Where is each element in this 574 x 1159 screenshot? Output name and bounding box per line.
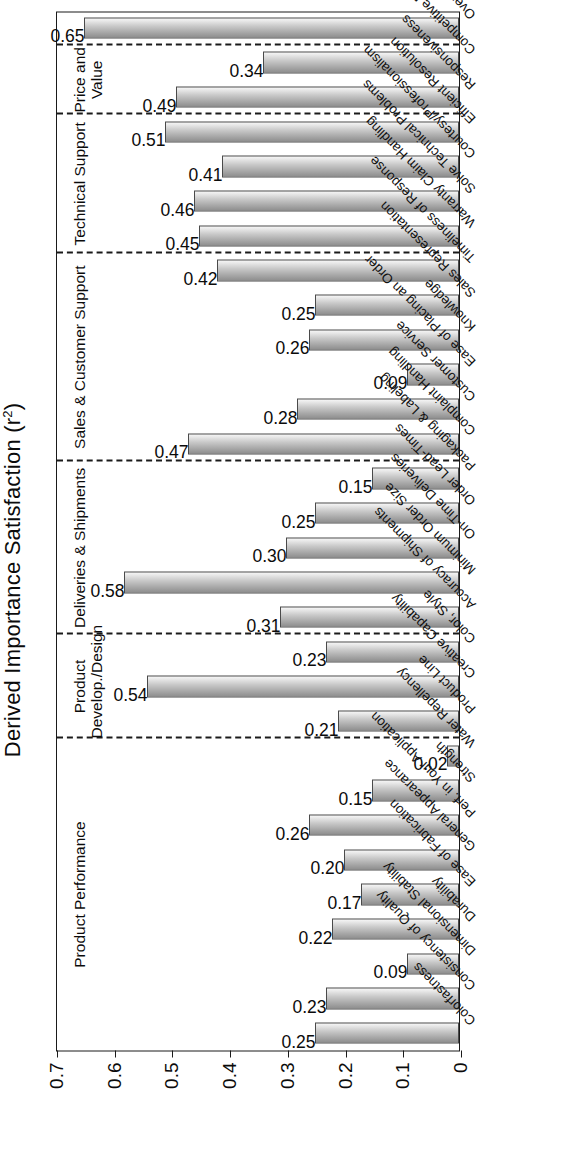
y-axis-tick-label: 0.6 — [104, 1062, 126, 1088]
y-axis-tick — [403, 1050, 404, 1057]
group-label: Price and Value — [71, 45, 106, 114]
y-axis-tick — [346, 1050, 347, 1057]
group-label: Sales & Customer Support — [71, 253, 88, 461]
bar-value-label: 0.26 — [275, 823, 309, 844]
bar-value-label: 0.41 — [189, 165, 223, 186]
bar-value-label: 0.46 — [160, 199, 194, 220]
group-separator — [57, 251, 459, 253]
group-separator — [57, 632, 459, 634]
group-label: Product Performance — [71, 738, 88, 1050]
group-label: Deliveries & Shipments — [71, 461, 88, 634]
y-axis-tick-label: 0 — [450, 1062, 472, 1073]
group-label: Product Develop./Design — [71, 634, 106, 738]
bar-value-label: 0.25 — [281, 1031, 315, 1052]
bar-value-label: 0.51 — [131, 130, 165, 151]
bar-value-label: 0.15 — [339, 477, 373, 498]
bar-value-label: 0.23 — [293, 650, 327, 671]
bar-value-label: 0.42 — [183, 269, 217, 290]
group-label: Technical Support — [71, 114, 88, 253]
y-axis-tick-label: 0.1 — [392, 1062, 414, 1088]
bar-value-label: 0.54 — [114, 685, 148, 706]
bar-value-label: 0.22 — [299, 927, 333, 948]
rotated-figure-wrapper: Derived Importance Satisfaction (r2) 00.… — [0, 0, 574, 1159]
bar-value-label: 0.09 — [374, 962, 408, 983]
bar-value-label: 0.20 — [310, 858, 344, 879]
y-axis-tick-label: 0.3 — [277, 1062, 299, 1088]
y-axis-title: Derived Importance Satisfaction (r2) — [0, 0, 26, 1159]
bar-value-label: 0.26 — [275, 338, 309, 359]
bar — [124, 571, 459, 592]
bar-value-label: 0.34 — [229, 61, 263, 82]
bar-value-label: 0.58 — [91, 581, 125, 602]
y-axis-tick-label: 0.2 — [335, 1062, 357, 1088]
y-axis-tick — [115, 1050, 116, 1057]
y-axis-tick-label: 0.5 — [161, 1062, 183, 1088]
y-axis-tick — [461, 1050, 462, 1057]
y-axis-tick-label: 0.4 — [219, 1062, 241, 1088]
bar-value-label: 0.17 — [327, 893, 361, 914]
bar-value-label: 0.30 — [252, 546, 286, 567]
bar-value-label: 0.15 — [339, 789, 373, 810]
y-axis-tick — [57, 1050, 58, 1057]
y-axis-tick — [172, 1050, 173, 1057]
bar-value-label: 0.28 — [264, 407, 298, 428]
bar — [315, 1022, 459, 1043]
y-axis-tick-label: 0.7 — [46, 1062, 68, 1088]
y-axis-tick — [230, 1050, 231, 1057]
chart-figure: Derived Importance Satisfaction (r2) 00.… — [0, 0, 574, 1159]
bar-value-label: 0.23 — [293, 997, 327, 1018]
bar-value-label: 0.25 — [281, 303, 315, 324]
bar-value-label: 0.25 — [281, 511, 315, 532]
bar — [217, 259, 459, 280]
